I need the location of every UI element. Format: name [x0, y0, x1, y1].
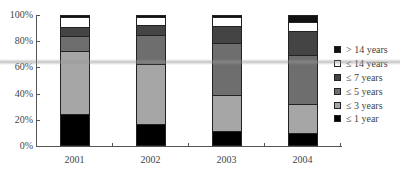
legend-label: ≤ 7 years	[346, 72, 383, 83]
legend-swatch	[334, 74, 341, 81]
legend-item: ≤ 3 years	[334, 98, 388, 112]
legend-item: ≤ 5 years	[334, 84, 388, 98]
y-tick	[36, 94, 40, 95]
bar-segment	[288, 105, 318, 134]
y-tick-label: 100%	[0, 10, 33, 20]
y-tick-label: 0%	[0, 141, 33, 151]
bar-segment	[288, 32, 318, 56]
y-tick	[36, 146, 40, 147]
x-axis	[36, 146, 342, 147]
y-axis	[36, 15, 37, 146]
legend-item: ≤ 7 years	[334, 71, 388, 85]
bar-segment	[136, 125, 166, 146]
x-tick	[264, 143, 265, 146]
y-tick-label: 60%	[0, 62, 33, 72]
bar-segment	[136, 36, 166, 65]
legend-swatch	[334, 88, 341, 95]
legend-swatch	[334, 115, 341, 122]
bar-2002	[136, 15, 166, 146]
legend-swatch	[334, 102, 341, 109]
bar-2003	[212, 15, 242, 146]
bar-segment	[212, 27, 242, 44]
bar-segment	[60, 115, 90, 146]
legend-swatch	[334, 60, 341, 67]
legend-item: > 14 years	[334, 43, 388, 57]
bar-segment	[60, 18, 90, 28]
x-tick-label: 2003	[207, 154, 247, 165]
legend-label: ≤ 3 years	[346, 100, 383, 111]
x-tick-label: 2002	[131, 154, 171, 165]
bar-segment	[212, 18, 242, 27]
y-tick-label: 80%	[0, 36, 33, 46]
y-tick	[36, 41, 40, 42]
bar-segment	[212, 132, 242, 146]
y-tick-label: 40%	[0, 89, 33, 99]
y-tick-label: 20%	[0, 115, 33, 125]
legend-item: ≤ 1 year	[334, 112, 388, 126]
x-tick	[340, 143, 341, 146]
x-tick-label: 2004	[283, 154, 323, 165]
legend-label: ≤ 14 years	[346, 58, 388, 69]
bar-segment	[212, 96, 242, 131]
bar-segment	[136, 18, 166, 26]
bar-segment	[288, 15, 318, 23]
legend-label: ≤ 5 years	[346, 86, 383, 97]
y-tick	[36, 67, 40, 68]
bar-segment	[136, 65, 166, 125]
legend-swatch	[334, 46, 341, 53]
bar-segment	[60, 28, 90, 37]
legend-label: ≤ 1 year	[346, 113, 379, 124]
bar-segment	[288, 56, 318, 106]
bar-2001	[60, 15, 90, 146]
bar-segment	[60, 52, 90, 115]
y-tick	[36, 15, 40, 16]
bar-segment	[136, 26, 166, 36]
bar-segment	[288, 134, 318, 146]
x-tick	[112, 143, 113, 146]
legend-label: > 14 years	[346, 44, 388, 55]
legend-item: ≤ 14 years	[334, 57, 388, 71]
bar-segment	[288, 23, 318, 32]
y-tick	[36, 120, 40, 121]
bar-2004	[288, 15, 318, 146]
legend: > 14 years≤ 14 years≤ 7 years≤ 5 years≤ …	[334, 43, 388, 126]
x-tick	[188, 143, 189, 146]
bar-segment	[212, 44, 242, 96]
bar-segment	[60, 37, 90, 51]
x-tick-label: 2001	[55, 154, 95, 165]
